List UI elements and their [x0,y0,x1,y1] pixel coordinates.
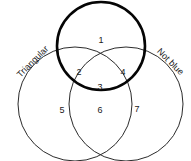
region-label-all-three: 3 [97,82,102,92]
region-label-right-only: 7 [134,104,139,114]
region-label-top-only: 1 [98,35,103,45]
region-label-left-right: 6 [97,105,102,115]
venn-diagram: 1 2 3 4 5 6 7 Triangular Not blue [0,0,191,161]
region-label-top-right: 4 [120,67,125,77]
region-label-left-only: 5 [59,105,64,115]
set-label-triangular: Triangular [15,44,50,79]
set-circle-top-emphasized [57,2,145,90]
venn-diagram-canvas: 1 2 3 4 5 6 7 Triangular Not blue [0,0,191,161]
set-label-not-blue: Not blue [155,46,186,77]
set-circle-right-not-blue [69,47,183,161]
region-label-top-left: 2 [76,67,81,77]
